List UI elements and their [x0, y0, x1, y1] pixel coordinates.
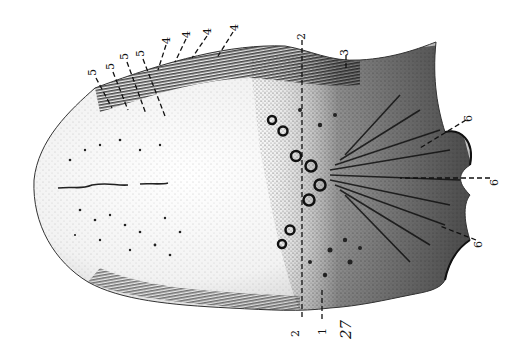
label-1: 1	[316, 328, 329, 335]
label-4: 4	[201, 28, 214, 35]
tongue-body	[0, 0, 529, 359]
tongue-anatomy-illustration: 5 5 5 5 4 4 4 4 2 3 6 6 6 2 1 27	[0, 0, 529, 359]
figure-number: 27	[337, 319, 355, 340]
label-2-top: 2	[295, 33, 308, 40]
label-5: 5	[86, 69, 99, 76]
label-6-bottom: 6	[472, 241, 485, 248]
label-5: 5	[104, 63, 117, 70]
label-3: 3	[338, 49, 351, 56]
label-4: 4	[180, 31, 193, 38]
label-2-bottom: 2	[289, 330, 302, 337]
label-4: 4	[228, 24, 241, 31]
label-5: 5	[134, 50, 147, 57]
label-4: 4	[160, 37, 173, 44]
label-6-middle: 6	[488, 179, 501, 186]
label-6-top: 6	[462, 115, 475, 122]
label-5: 5	[118, 53, 131, 60]
